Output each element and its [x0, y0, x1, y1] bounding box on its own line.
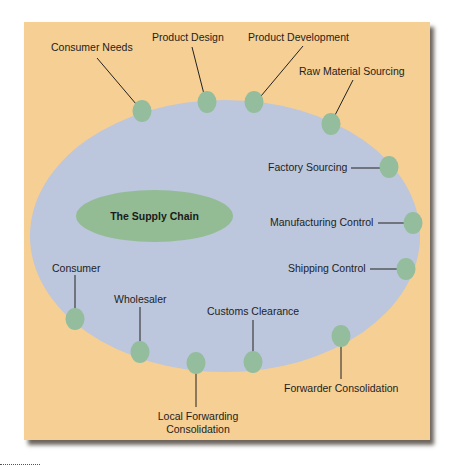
- node-shipping-control[interactable]: [397, 258, 416, 280]
- node-forwarder-consolidation[interactable]: [332, 325, 351, 347]
- label-line-1: Local Forwarding: [156, 410, 240, 423]
- label-shipping-control: Shipping Control: [288, 262, 366, 275]
- node-factory-sourcing[interactable]: [380, 156, 399, 178]
- label-line-2: Consolidation: [156, 423, 240, 436]
- node-local-forwarding-consolidation[interactable]: [187, 352, 206, 374]
- label-product-design: Product Design: [152, 31, 224, 44]
- node-consumer[interactable]: [66, 308, 85, 330]
- node-product-design[interactable]: [198, 91, 217, 113]
- node-raw-material-sourcing[interactable]: [322, 113, 341, 135]
- label-forwarder-consolidation: Forwarder Consolidation: [284, 382, 398, 395]
- node-manufacturing-control[interactable]: [404, 212, 423, 234]
- label-manufacturing-control: Manufacturing Control: [270, 216, 373, 229]
- label-factory-sourcing: Factory Sourcing: [268, 161, 347, 174]
- label-local-forwarding-consolidation: Local Forwarding Consolidation: [156, 410, 240, 436]
- label-consumer: Consumer: [52, 262, 100, 275]
- node-consumer-needs[interactable]: [133, 100, 152, 122]
- label-product-development: Product Development: [248, 31, 349, 44]
- dotted-rule: [0, 464, 40, 465]
- node-wholesaler[interactable]: [131, 341, 150, 363]
- node-customs-clearance[interactable]: [244, 351, 263, 373]
- label-customs-clearance: Customs Clearance: [207, 305, 299, 318]
- label-consumer-needs: Consumer Needs: [51, 41, 133, 54]
- node-product-development[interactable]: [245, 91, 264, 113]
- label-wholesaler: Wholesaler: [114, 293, 167, 306]
- label-raw-material-sourcing: Raw Material Sourcing: [299, 65, 405, 78]
